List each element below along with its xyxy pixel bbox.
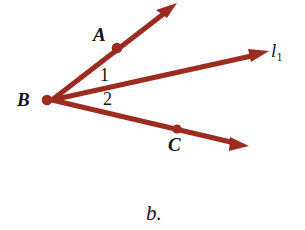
geometry-figure: A B C l1 1 2 b. bbox=[0, 0, 305, 230]
ray-b-l1-arrowhead bbox=[248, 49, 269, 62]
ray-bc-arrowhead bbox=[229, 137, 249, 151]
figure-caption: b. bbox=[146, 203, 162, 224]
line-label-l1-subscript: 1 bbox=[276, 50, 282, 64]
point-label-a: A bbox=[93, 25, 106, 44]
point-label-b: B bbox=[17, 90, 30, 109]
angle-label-2: 2 bbox=[103, 90, 112, 108]
line-label-l1: l1 bbox=[271, 41, 282, 63]
point-dot-c bbox=[172, 124, 181, 133]
point-dot-b bbox=[42, 95, 53, 106]
point-dot-a bbox=[112, 43, 123, 54]
point-label-c: C bbox=[168, 135, 181, 154]
rays-canvas bbox=[0, 0, 305, 230]
ray-bc bbox=[52, 100, 249, 151]
angle-label-1: 1 bbox=[100, 66, 109, 84]
ray-bc-line bbox=[52, 100, 235, 143]
